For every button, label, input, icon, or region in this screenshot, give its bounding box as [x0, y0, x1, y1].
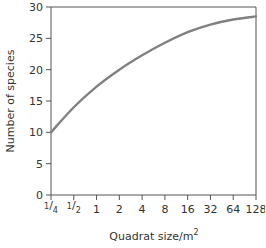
x-tick-label: 16: [181, 203, 195, 216]
y-tick-label: 20: [29, 64, 43, 77]
x-tick-label: 1/4: [44, 199, 58, 215]
x-tick-label: 32: [203, 203, 217, 216]
y-tick-label: 10: [29, 126, 43, 139]
x-tick-label: 1: [93, 203, 100, 216]
x-tick-label: 8: [161, 203, 168, 216]
x-tick-label: 2: [116, 203, 123, 216]
x-tick-label: 64: [226, 203, 240, 216]
x-axis-title-superscript: 2: [194, 228, 199, 237]
x-tick-label: 128: [246, 203, 266, 216]
y-axis-title: Number of species: [4, 49, 17, 152]
x-axis-title-text: Quadrat size/m: [109, 230, 193, 243]
species-area-chart: 051015202530 1/41/21248163264128 Number …: [0, 0, 265, 248]
species-area-curve: [51, 16, 256, 132]
x-axis-ticks: 1/41/21248163264128: [44, 195, 265, 216]
y-tick-label: 0: [36, 189, 43, 202]
y-tick-label: 30: [29, 1, 43, 14]
x-axis-title: Quadrat size/m2: [109, 228, 198, 243]
y-tick-label: 5: [36, 158, 43, 171]
x-tick-label: 4: [139, 203, 146, 216]
x-tick-label: 1/2: [67, 199, 81, 215]
y-axis-ticks: 051015202530: [29, 1, 51, 202]
y-tick-label: 25: [29, 32, 43, 45]
y-tick-label: 15: [29, 95, 43, 108]
